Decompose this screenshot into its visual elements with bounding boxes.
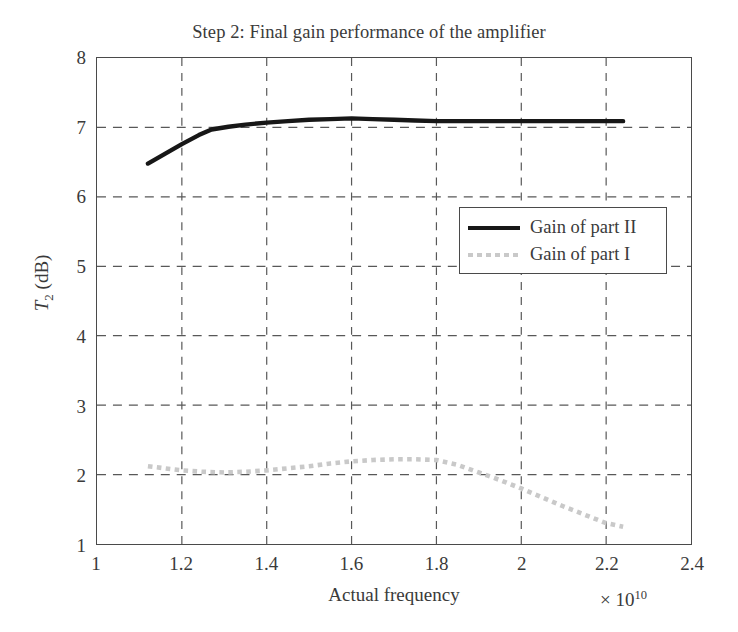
y-axis-label-unit: (dB): [31, 255, 52, 295]
x-tick-label: 2.4: [662, 554, 722, 573]
x-tick-label: 1.2: [151, 554, 211, 573]
legend-swatch-dotted-icon: [468, 249, 520, 261]
series-line-1: [148, 118, 623, 163]
series-line-2: [148, 459, 623, 526]
x-axis-multiplier-text: × 10: [600, 589, 634, 610]
figure-canvas: Step 2: Final gain performance of the am…: [0, 0, 738, 632]
y-axis-label-base: T: [31, 301, 52, 312]
y-axis-label-subscript: 2: [41, 294, 56, 300]
y-tick-label: 8: [52, 48, 86, 67]
y-tick-label: 2: [52, 466, 86, 485]
y-tick-label: 4: [52, 326, 86, 345]
x-tick-label: 1.8: [407, 554, 467, 573]
x-tick-label: 1.4: [236, 554, 296, 573]
x-tick-label: 1.6: [321, 554, 381, 573]
legend-label-part-ii: Gain of part II: [530, 218, 636, 237]
y-tick-label: 7: [52, 117, 86, 136]
series-layer: [97, 58, 691, 544]
legend-item-part-ii: Gain of part II: [468, 214, 658, 241]
x-axis-tick-labels: 11.21.41.61.822.22.4: [96, 554, 692, 580]
y-tick-label: 1: [52, 536, 86, 555]
y-tick-label: 3: [52, 396, 86, 415]
x-axis-multiplier-exponent: 10: [634, 588, 647, 602]
legend-box: Gain of part II Gain of part I: [459, 207, 667, 274]
chart-title: Step 2: Final gain performance of the am…: [0, 22, 738, 43]
plot-area: [96, 57, 692, 545]
y-tick-label: 6: [52, 187, 86, 206]
x-tick-label: 1: [66, 554, 126, 573]
legend-item-part-i: Gain of part I: [468, 241, 658, 268]
y-tick-label: 5: [52, 257, 86, 276]
y-axis-tick-labels: 12345678: [52, 57, 86, 545]
legend-swatch-solid-icon: [468, 222, 520, 234]
x-tick-label: 2: [492, 554, 552, 573]
legend-label-part-i: Gain of part I: [530, 245, 630, 264]
x-axis-multiplier: × 1010: [600, 588, 647, 611]
y-axis-label: T2 (dB): [31, 223, 57, 343]
x-tick-label: 2.2: [577, 554, 637, 573]
